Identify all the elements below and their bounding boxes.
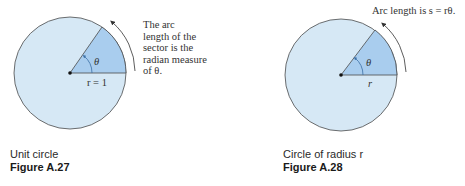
figure-label: Figure A.28 (283, 161, 363, 174)
note-line: sector is the (143, 42, 207, 54)
figure-caption: Unit circle Figure A.27 (10, 148, 70, 174)
arc-length-note: Arc length is s = rθ. (372, 5, 455, 17)
diagrams-canvas (0, 0, 465, 186)
note-line: length of the (143, 31, 207, 43)
arc-length-note: The arc length of the sector is the radi… (143, 19, 207, 77)
angle-label: θ (94, 56, 99, 68)
center-point (339, 73, 343, 77)
unit-circle-figure (14, 17, 135, 129)
figure-label: Figure A.27 (10, 161, 70, 174)
radius-label: r = 1 (87, 77, 107, 89)
caption-text: Circle of radius r (283, 148, 363, 161)
caption-text: Unit circle (10, 148, 70, 161)
figure-caption: Circle of radius r Figure A.28 (283, 148, 363, 174)
radius-circle-figure (285, 19, 406, 131)
note-line: The arc (143, 19, 207, 31)
radius-label: r (368, 78, 372, 90)
center-point (68, 71, 72, 75)
note-line: of θ. (143, 65, 207, 77)
note-line: radian measure (143, 54, 207, 66)
angle-label: θ (366, 57, 371, 69)
